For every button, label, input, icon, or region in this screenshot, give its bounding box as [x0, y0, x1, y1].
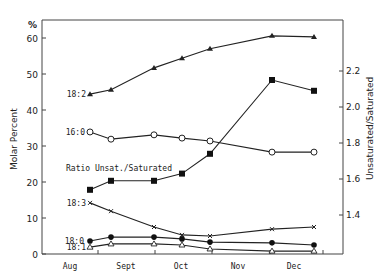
filled-circle-marker [207, 239, 213, 245]
x-tick-label: Dec [287, 262, 302, 271]
filled-circle-marker [108, 234, 114, 240]
y2-axis-title: Unsaturated/Saturated [365, 77, 375, 180]
open-circle-marker [269, 149, 275, 155]
left-tick-label: 60 [27, 34, 39, 44]
series-label: 18:2 [67, 90, 86, 99]
right-tick-label: 2.2 [346, 66, 360, 76]
y-unit-label: % [28, 20, 37, 30]
x-tick-label: Nov [231, 262, 246, 271]
series-group [87, 33, 317, 253]
series-line [90, 244, 314, 251]
square-marker [87, 187, 93, 193]
square-marker [179, 171, 185, 177]
open-circle-marker [108, 136, 114, 142]
series-line [90, 80, 314, 190]
x-axis: AugSeptOctNovDec [63, 250, 323, 271]
series-18-3 [88, 201, 316, 238]
left-tick-label: 10 [27, 214, 39, 224]
square-marker [311, 88, 317, 94]
open-circle-marker [207, 138, 213, 144]
filled-circle-marker [87, 238, 93, 244]
open-circle-marker [179, 135, 185, 141]
left-y-axis: 0102030405060 [27, 34, 46, 260]
square-marker [207, 151, 213, 157]
left-tick-label: 20 [27, 178, 39, 188]
x-tick-label: Aug [63, 262, 78, 271]
filled-circle-marker [269, 240, 275, 246]
series-18-0 [87, 234, 317, 248]
right-y-axis: 1.41.61.82.02.2 [339, 66, 361, 220]
series-18-1 [87, 241, 317, 253]
square-marker [269, 77, 275, 83]
left-tick-label: 30 [27, 142, 39, 152]
left-tick-label: 0 [32, 250, 38, 260]
triangle-marker [269, 33, 275, 38]
filled-circle-marker [311, 242, 317, 248]
open-circle-marker [311, 149, 317, 155]
square-marker [108, 178, 114, 184]
open-circle-marker [87, 129, 93, 135]
series-label: Ratio Unsat./Saturated [66, 164, 172, 173]
series-label: 16:0 [66, 128, 85, 137]
series-label: 18:1 [67, 243, 86, 252]
series-16-0 [87, 129, 317, 155]
series-label: 18:3 [67, 199, 86, 208]
right-tick-label: 1.4 [346, 210, 361, 220]
series-line [90, 203, 314, 236]
right-tick-label: 1.8 [346, 138, 361, 148]
series-line [90, 132, 314, 152]
filled-circle-marker [151, 234, 157, 240]
left-tick-label: 40 [27, 106, 39, 116]
open-circle-marker [151, 132, 157, 138]
series-line [90, 36, 314, 94]
left-tick-label: 50 [27, 70, 39, 80]
x-tick-label: Oct [174, 262, 189, 271]
right-tick-label: 1.6 [346, 174, 361, 184]
series-ratio-unsat-saturated [87, 77, 317, 193]
square-marker [151, 178, 157, 184]
filled-circle-marker [179, 236, 185, 242]
series-18-2 [87, 33, 317, 96]
right-tick-label: 2.0 [346, 102, 361, 112]
x-tick-label: Sept [116, 262, 135, 271]
y-axis-title: Molar Percent [9, 108, 19, 170]
fatty-acid-chart: 0102030405060 1.41.61.82.02.2 AugSeptOct… [0, 0, 386, 277]
